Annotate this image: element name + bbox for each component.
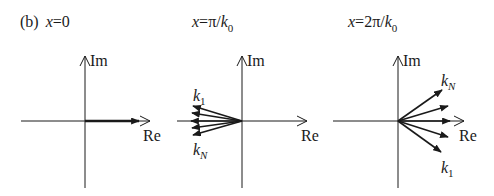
- panel-x-pi-k0: x=π/k0 Im Re k1 kN: [177, 13, 319, 188]
- phasor-fan: [398, 90, 450, 152]
- title-var: x: [347, 13, 355, 30]
- title-sub: 0: [392, 22, 398, 34]
- title-eq: =0: [53, 13, 70, 30]
- title-eq: =2π/: [355, 13, 385, 30]
- panel-title: x=2π/k0: [347, 13, 398, 34]
- phasor: [192, 113, 242, 121]
- phasor-k1: [193, 106, 242, 121]
- phasor-kN: [193, 121, 242, 135]
- phasor: [398, 121, 448, 137]
- imag-axis-label: Im: [247, 52, 265, 69]
- imag-axis-label: Im: [403, 52, 421, 69]
- phasor-k1: [398, 121, 441, 152]
- panel-x-2pi-k0: x=2π/k0 Im Re kN k1: [333, 13, 477, 188]
- imag-axis-label: Im: [90, 52, 108, 69]
- title-var: x: [45, 13, 53, 30]
- phasor-kN: [398, 90, 442, 121]
- phasor-fan: [191, 106, 242, 135]
- panel-tag: (b): [20, 13, 39, 31]
- phasor: [398, 106, 448, 121]
- label-k1: k1: [441, 159, 454, 179]
- panel-title: (b) x=0: [20, 13, 70, 31]
- label-kN: kN: [193, 141, 208, 161]
- title-var: x: [191, 13, 199, 30]
- label-kN: kN: [441, 72, 456, 92]
- title-eq: =π/: [199, 13, 221, 30]
- real-axis-label: Re: [459, 127, 477, 144]
- panel-title: x=π/k0: [191, 13, 234, 34]
- real-axis-label: Re: [143, 127, 161, 144]
- real-axis-label: Re: [301, 127, 319, 144]
- panel-x0: (b) x=0 Im Re: [20, 13, 161, 188]
- phasor-diagram: (b) x=0 Im Re x=π/k0 Im Re k1 kN: [0, 0, 494, 196]
- phasor: [192, 121, 242, 128]
- title-sub: 0: [228, 22, 234, 34]
- label-k1: k1: [193, 87, 206, 107]
